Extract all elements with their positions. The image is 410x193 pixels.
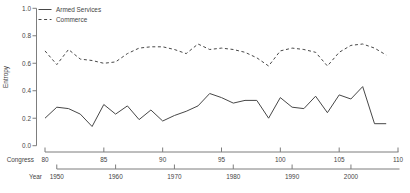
congress-tick-label: 95 [218, 156, 226, 163]
y-tick-label: 0.6 [22, 60, 31, 67]
y-tick-label: 1.0 [22, 5, 31, 12]
congress-tick-label: 105 [334, 156, 345, 163]
entropy-chart-figure: 0.00.20.40.60.81.0Entropy808590951001051… [0, 0, 410, 193]
year-tick-label: 1980 [226, 173, 241, 180]
congress-tick-label: 110 [393, 156, 404, 163]
armed-services-line [45, 87, 386, 127]
year-tick-label: 1990 [285, 173, 300, 180]
commerce-line [45, 44, 386, 66]
y-axis-title: Entropy [2, 65, 10, 88]
congress-tick-label: 90 [159, 156, 167, 163]
y-tick-label: 0.0 [22, 142, 31, 149]
congress-axis-title: Congress [7, 156, 34, 164]
year-tick-label: 1960 [108, 173, 123, 180]
legend-label-commerce: Commerce [56, 16, 88, 23]
year-axis-title: Year [29, 173, 43, 180]
y-tick-label: 0.4 [22, 87, 31, 94]
chart-canvas: 0.00.20.40.60.81.0Entropy808590951001051… [0, 0, 410, 193]
year-tick-label: 1970 [167, 173, 182, 180]
y-tick-label: 0.2 [22, 115, 31, 122]
congress-tick-label: 85 [100, 156, 108, 163]
y-tick-label: 0.8 [22, 32, 31, 39]
year-tick-label: 2000 [344, 173, 359, 180]
legend-label-armed-services: Armed Services [56, 6, 101, 13]
congress-tick-label: 100 [275, 156, 286, 163]
year-tick-label: 1950 [50, 173, 65, 180]
congress-tick-label: 80 [41, 156, 49, 163]
